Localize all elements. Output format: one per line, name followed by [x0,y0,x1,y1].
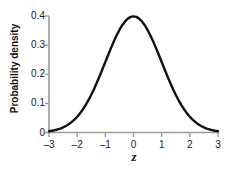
x-tick-label: –2 [63,139,91,150]
x-tick-label: 0 [120,139,148,150]
x-tick-label: 2 [176,139,204,150]
y-tick-label: 0 [14,127,45,138]
axes [49,16,218,133]
y-tick-label: 0.2 [14,68,45,79]
y-tick-label: 0.3 [14,39,45,50]
x-tick-label: –1 [91,139,119,150]
normal-density-curve [49,16,218,131]
x-tick-label: 3 [204,139,229,150]
x-axis-label: z [104,149,164,165]
x-tick-label: 1 [148,139,176,150]
y-tick-label: 0.4 [14,10,45,21]
x-tick-label: –3 [35,139,63,150]
y-tick-label: 0.1 [14,97,45,108]
probability-density-chart: Probability density z 0.40.30.20.10–3–2–… [0,0,229,170]
